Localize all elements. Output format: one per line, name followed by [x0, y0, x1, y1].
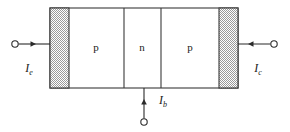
emitter-current-subscript: e [29, 68, 33, 77]
emitter-current-label: Ie [24, 61, 33, 77]
collector-current-subscript: c [258, 68, 262, 77]
base-terminal-node[interactable] [141, 119, 147, 125]
collector-current-arrowhead [248, 41, 254, 47]
collector-current-label: Ic [253, 61, 262, 77]
emitter-current-arrowhead [31, 41, 37, 47]
collector-terminal-node[interactable] [271, 41, 277, 47]
collector-contact [219, 8, 238, 88]
emitter-terminal-node[interactable] [12, 41, 18, 47]
region-label-emitter: p [93, 41, 99, 53]
region-label-base: n [139, 41, 145, 53]
emitter-contact [50, 8, 69, 88]
figure-canvas: p n p Ie Ic Ib [0, 0, 290, 132]
base-current-arrowhead [141, 99, 147, 105]
region-label-collector: p [187, 41, 193, 53]
base-current-subscript: b [163, 100, 167, 109]
base-current-label: Ib [158, 93, 167, 109]
transistor-cross-section-figure: p n p Ie Ic Ib [0, 0, 290, 132]
